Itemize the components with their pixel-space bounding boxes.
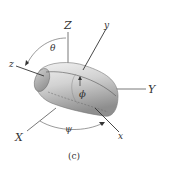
label-y: y [103,20,110,30]
label-Y: Y [148,83,157,96]
rigid-body [31,63,118,117]
label-phi: ϕ [79,88,86,99]
psi-arrowhead [99,122,105,126]
euler-angle-diagram: Z y θ z Y ϕ ψ X x (c) [0,0,169,173]
label-psi: ψ [65,124,73,134]
X-axis [27,108,56,131]
figure-caption: (c) [68,151,80,161]
label-Z: Z [63,19,72,32]
theta-arc [27,38,66,64]
label-x: x [118,131,123,141]
label-z: z [8,59,14,69]
y-axis [83,29,106,70]
label-theta: θ [50,43,56,53]
label-X: X [14,131,24,144]
